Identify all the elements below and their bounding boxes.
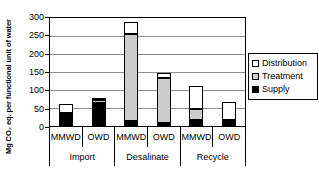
bar-import-owd-treatment: [92, 100, 106, 103]
y-axis-tick-label: 0: [18, 123, 44, 132]
bar-desalinate-mmwd-treatment: [124, 34, 138, 120]
x-group-label-recycle: Recycle: [181, 147, 246, 166]
bar-import-owd-supply: [92, 103, 106, 126]
x-group-label-import: Import: [50, 147, 115, 166]
legend-item-distribution: Distribution: [252, 59, 314, 68]
y-axis-tick-mark: [45, 109, 49, 110]
legend-swatch-supply: [252, 86, 259, 93]
bar-recycle-mmwd-distribution: [189, 86, 203, 109]
bar-desalinate-mmwd-distribution: [124, 22, 138, 35]
y-axis-tick-label: 300: [18, 13, 44, 22]
y-axis-tick-mark: [45, 35, 49, 36]
bar-desalinate-owd-supply: [157, 123, 171, 126]
gridline-150: [50, 72, 245, 73]
bar-recycle-owd-treatment: [222, 120, 236, 123]
bar-recycle-mmwd-treatment: [189, 109, 203, 120]
y-axis-tick-label: 250: [18, 31, 44, 40]
x-category-label: MMWD: [115, 127, 148, 147]
y-axis-tick-label: 50: [18, 104, 44, 113]
y-axis-tick-label: 150: [18, 68, 44, 77]
bar-import-mmwd-supply: [59, 113, 73, 126]
bar-import-mmwd-distribution: [59, 104, 73, 113]
bar-recycle-owd-supply: [222, 122, 236, 126]
bar-recycle-owd-distribution: [222, 102, 236, 120]
legend-item-supply: Supply: [252, 85, 314, 94]
gridline-50: [50, 108, 245, 109]
y-axis-tick-mark: [45, 17, 49, 18]
legend-item-treatment: Treatment: [252, 72, 314, 81]
stacked-bar-chart: Mg CO₂ eq. per functional unit of water …: [0, 0, 319, 174]
gridline-100: [50, 90, 245, 91]
y-axis-tick-label: 100: [18, 86, 44, 95]
legend-swatch-distribution: [252, 60, 259, 67]
x-category-label: OWD: [213, 127, 246, 147]
x-group-label-desalinate: Desalinate: [115, 147, 180, 166]
legend-swatch-treatment: [252, 73, 259, 80]
y-axis-tick-mark: [45, 54, 49, 55]
legend-label: Supply: [262, 85, 290, 94]
plot-area: [49, 17, 246, 127]
bar-recycle-mmwd-supply: [189, 120, 203, 126]
legend-label: Treatment: [262, 72, 303, 81]
y-axis-title: Mg CO₂ eq. per functional unit of water: [0, 0, 16, 174]
bar-desalinate-mmwd-supply: [124, 121, 138, 126]
x-category-label: MMWD: [50, 127, 83, 147]
y-axis-tick-mark: [45, 127, 49, 128]
y-axis-tick-label: 200: [18, 49, 44, 58]
legend-box: DistributionTreatmentSupply: [248, 53, 318, 100]
x-category-label: MMWD: [181, 127, 214, 147]
bar-desalinate-owd-treatment: [157, 78, 171, 123]
y-axis-tick-mark: [45, 72, 49, 73]
bar-import-owd-distribution: [92, 98, 106, 100]
bar-desalinate-owd-distribution: [157, 73, 171, 78]
x-category-label: OWD: [148, 127, 181, 147]
x-axis-category-row: MMWDOWDMMWDOWDMMWDOWD: [49, 127, 246, 147]
legend-label: Distribution: [262, 59, 307, 68]
y-axis-tick-mark: [45, 90, 49, 91]
gridline-200: [50, 54, 245, 55]
gridline-250: [50, 36, 245, 37]
x-axis-group-row: ImportDesalinateRecycle: [49, 147, 246, 166]
x-category-label: OWD: [83, 127, 116, 147]
